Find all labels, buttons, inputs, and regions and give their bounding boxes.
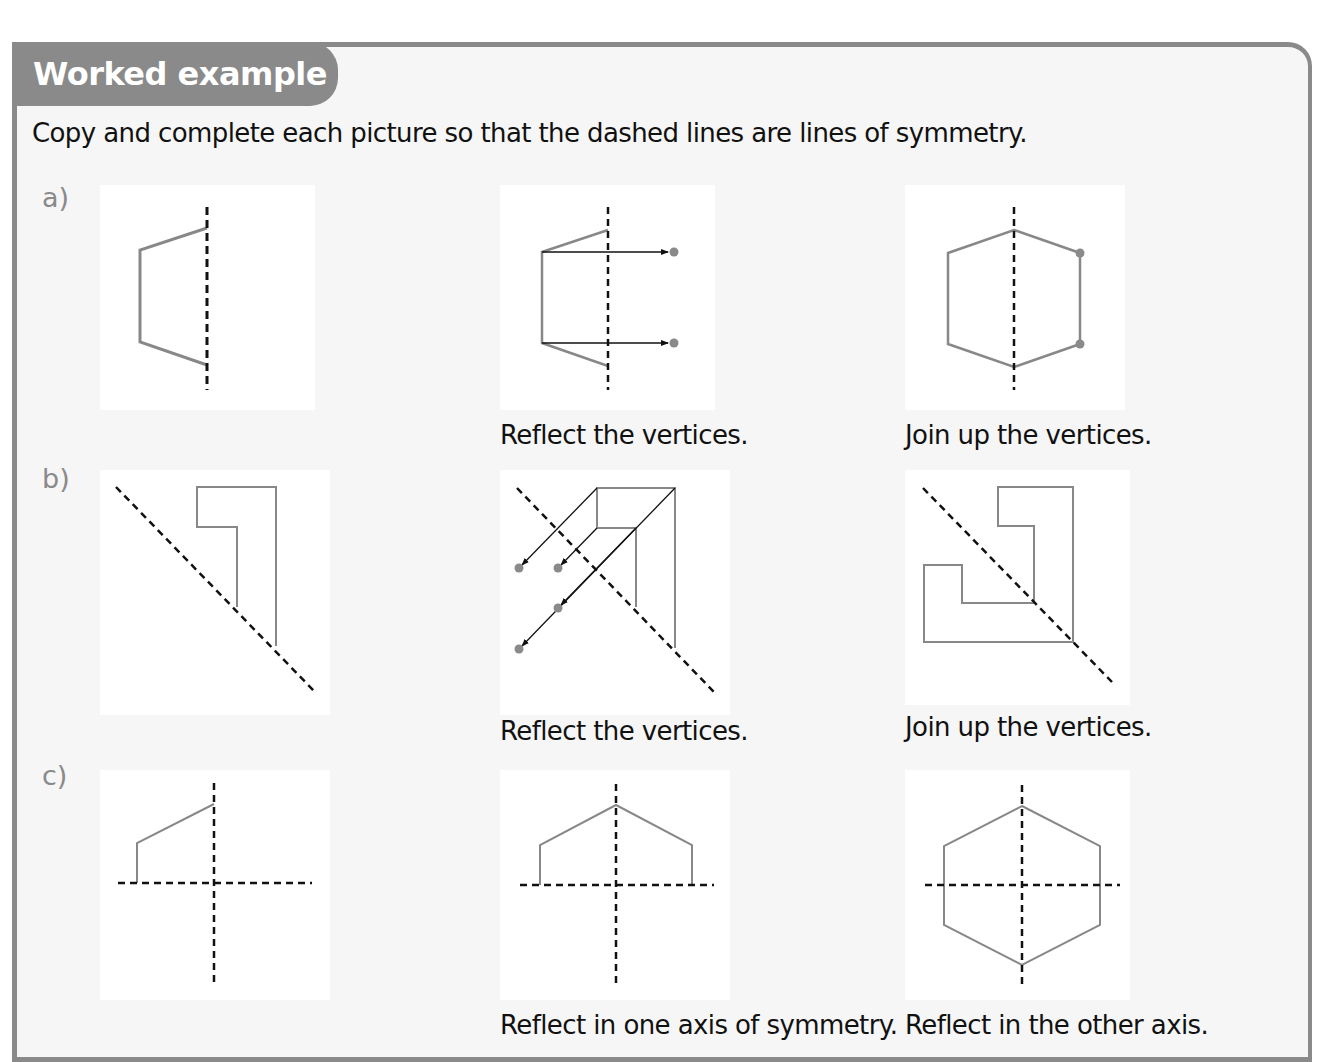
figure-a-start: [140, 207, 207, 390]
figure-c-reflect-other: [925, 785, 1120, 986]
figure-b-start: [116, 487, 316, 693]
figure-b-join: [923, 487, 1112, 682]
figure-a-reflect: [542, 207, 679, 390]
figure-a-join: [948, 207, 1085, 390]
figure-c-reflect-one: [520, 784, 714, 986]
figure-c-start: [118, 783, 312, 982]
figure-b-reflect: [515, 488, 715, 692]
